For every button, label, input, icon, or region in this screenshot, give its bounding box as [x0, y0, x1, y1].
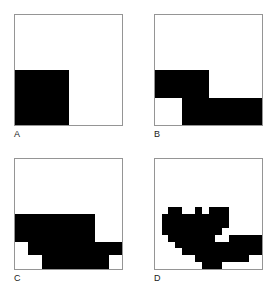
raster-cell: [209, 262, 216, 269]
raster-cell: [162, 180, 169, 187]
raster-cell: [95, 173, 108, 187]
raster-cell: [69, 159, 82, 173]
raster-cell: [188, 255, 195, 262]
raster-cell: [182, 166, 189, 173]
raster-cell: [202, 221, 209, 228]
raster-cell: [155, 207, 162, 214]
raster-cell: [242, 207, 249, 214]
raster-cell: [215, 180, 222, 187]
raster-cell: [242, 221, 249, 228]
raster-cell: [235, 159, 242, 166]
raster-cell: [242, 235, 249, 242]
raster-cell: [162, 166, 169, 173]
raster-cell: [95, 159, 108, 173]
raster-cell: [195, 207, 202, 214]
raster-cell: [242, 262, 249, 269]
raster-cell: [255, 180, 262, 187]
raster-cell: [188, 248, 195, 255]
raster-cell: [175, 262, 182, 269]
raster-cell: [195, 180, 202, 187]
raster-cell: [42, 200, 55, 214]
raster-cell: [69, 70, 123, 125]
raster-cell: [195, 228, 202, 235]
raster-cell: [15, 214, 28, 228]
figure-root: A B C D: [0, 0, 279, 290]
raster-cell: [249, 214, 256, 221]
raster-cell: [155, 248, 162, 255]
raster-cell: [229, 242, 236, 249]
raster-cell: [242, 193, 249, 200]
raster-cell: [42, 159, 55, 173]
raster-cell: [215, 221, 222, 228]
raster-cell: [168, 255, 175, 262]
raster-cell: [15, 255, 28, 269]
raster-cell: [215, 255, 222, 262]
raster-cell: [235, 193, 242, 200]
raster-cell: [15, 228, 28, 242]
raster-cell: [155, 193, 162, 200]
raster-cell: [15, 159, 28, 173]
raster-cell: [175, 166, 182, 173]
raster-cell: [175, 180, 182, 187]
raster-cell: [182, 193, 189, 200]
raster-cell: [249, 166, 256, 173]
raster-cell: [202, 159, 209, 166]
raster-cell: [202, 242, 209, 249]
raster-cell: [182, 214, 189, 221]
raster-cell: [182, 43, 209, 71]
raster-cell: [168, 262, 175, 269]
raster-cell: [55, 242, 68, 256]
panel-a: A: [14, 14, 123, 139]
raster-cell: [168, 248, 175, 255]
raster-cell: [229, 235, 236, 242]
raster-cell: [55, 187, 68, 201]
raster-cell: [235, 207, 242, 214]
raster-cell: [255, 262, 262, 269]
raster-cell: [202, 255, 209, 262]
raster-cell: [82, 242, 95, 256]
raster-cell: [182, 15, 209, 43]
raster-cell: [175, 235, 182, 242]
raster-cell: [182, 98, 209, 126]
raster-cell: [255, 207, 262, 214]
raster-cell: [235, 98, 262, 126]
raster-cell: [182, 248, 189, 255]
raster-cell: [175, 255, 182, 262]
raster-cell: [109, 187, 122, 201]
raster-cell: [255, 193, 262, 200]
raster-cell: [109, 255, 122, 269]
raster-cell: [209, 187, 216, 194]
raster-cell: [209, 207, 216, 214]
raster-cell: [69, 228, 82, 242]
raster-cell: [195, 214, 202, 221]
raster-cell: [188, 228, 195, 235]
raster-cell: [249, 235, 256, 242]
raster-cell: [95, 255, 108, 269]
raster-cell: [209, 200, 216, 207]
raster-cell: [222, 228, 229, 235]
raster-cell: [209, 43, 236, 71]
panel-b-frame: [154, 14, 263, 126]
raster-cell: [182, 70, 209, 98]
raster-cell: [195, 200, 202, 207]
raster-cell: [249, 255, 256, 262]
raster-cell: [229, 187, 236, 194]
raster-cell: [209, 228, 216, 235]
raster-cell: [215, 207, 222, 214]
raster-cell: [222, 200, 229, 207]
raster-cell: [242, 187, 249, 194]
raster-cell: [235, 228, 242, 235]
raster-cell: [215, 159, 222, 166]
raster-cell: [82, 228, 95, 242]
raster-cell: [162, 242, 169, 249]
raster-cell: [42, 173, 55, 187]
panel-d-frame: [154, 158, 263, 270]
raster-cell: [155, 43, 182, 71]
raster-cell: [235, 235, 242, 242]
raster-cell: [188, 262, 195, 269]
raster-cell: [209, 235, 216, 242]
raster-cell: [235, 262, 242, 269]
raster-cell: [95, 200, 108, 214]
raster-cell: [255, 242, 262, 249]
raster-cell: [82, 173, 95, 187]
